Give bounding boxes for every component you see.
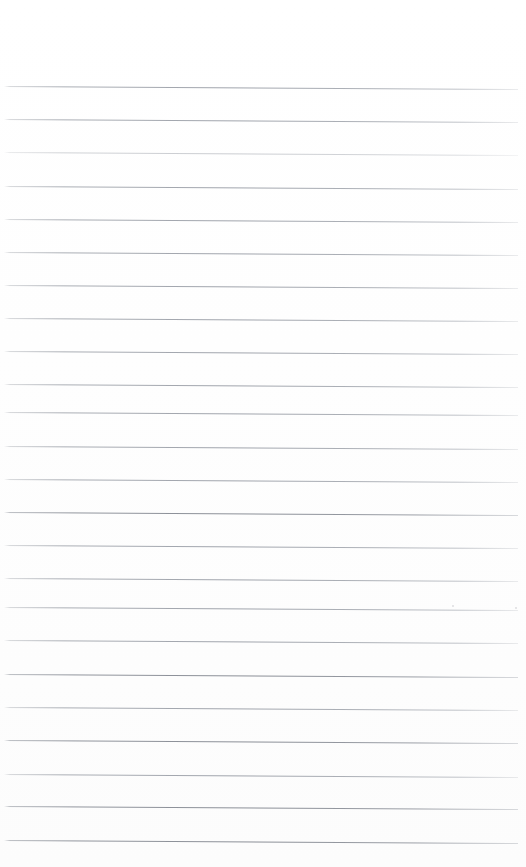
ruled-line [4,545,518,549]
ruled-line [4,384,518,388]
ruled-line [4,774,518,778]
ruled-line [4,285,518,289]
ruled-line [4,512,518,516]
scan-speck [452,605,454,607]
scan-speck [515,607,517,609]
scanned-page [0,0,526,867]
ruled-line [4,252,518,256]
ruled-line [4,578,518,582]
ruled-line [4,219,518,223]
ruled-line [4,479,518,483]
ruled-line [4,86,518,90]
ruled-line [4,607,518,611]
ruled-line [4,351,518,355]
ruled-line [4,186,518,190]
ruled-line [4,446,518,450]
ruled-line [4,318,518,322]
ruled-line [4,674,518,678]
ruled-line [4,412,518,416]
ruled-line [4,119,518,123]
ruled-line [4,840,518,844]
ruled-line [4,640,518,644]
ruled-lines-layer [0,0,526,867]
ruled-line [4,806,518,810]
ruled-line [4,740,518,744]
ruled-line [4,152,518,156]
ruled-line [4,707,518,711]
